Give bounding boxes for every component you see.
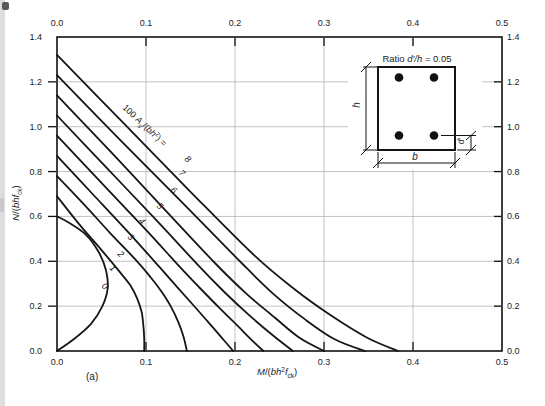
inset-column-section — [378, 67, 455, 150]
right-axis-tick-label: 0.6 — [507, 211, 520, 221]
inset-ratio-label: Ratio d′/h = 0.05 — [382, 53, 451, 64]
label-part: M — [257, 366, 265, 377]
label-part: 2 — [281, 366, 285, 373]
left-axis-tick-label: 0.8 — [29, 167, 42, 177]
label-part: = 0.05 — [422, 53, 451, 64]
right-axis-tick-label: 0.0 — [507, 346, 520, 356]
interaction-curve-8 — [57, 55, 398, 351]
bottom-axis-tick-label: 0.3 — [318, 357, 331, 367]
left-axis-tick-label: 0.4 — [29, 256, 42, 266]
label-part: ) — [294, 366, 297, 377]
bottom-axis-tick-label: 0.2 — [229, 357, 242, 367]
left-axis-tick-label: 1.0 — [29, 122, 42, 132]
x-axis-label: M/(bh2fck) — [257, 366, 297, 377]
interaction-curve-1 — [57, 196, 144, 351]
bottom-axis-tick-label: 0.5 — [496, 357, 509, 367]
label-part: /( — [10, 208, 21, 214]
left-axis-tick-label: 0.6 — [29, 211, 42, 221]
left-axis-tick-label: 1.4 — [29, 32, 42, 42]
top-axis-tick-label: 0.0 — [51, 18, 64, 28]
left-axis-tick-label: 1.2 — [29, 77, 42, 87]
right-axis-tick-label: 1.0 — [507, 122, 520, 132]
interaction-curve-0 — [57, 216, 108, 351]
label-part: N — [10, 214, 21, 221]
bottom-axis-tick-label: 0.4 — [407, 357, 420, 367]
panel-label: (a) — [86, 371, 98, 382]
label-part: bhf — [10, 195, 21, 208]
label-part: ck — [15, 188, 22, 195]
left-axis-tick-label: 0.2 — [29, 301, 42, 311]
top-axis-tick-label: 0.1 — [140, 18, 153, 28]
chart-canvas — [0, 0, 545, 406]
bottom-axis-tick-label: 0.0 — [51, 357, 64, 367]
label-part: bh — [271, 366, 282, 377]
left-axis-tick-label: 0.0 — [29, 346, 42, 356]
inset-b-dimension-label: b — [412, 151, 418, 162]
inset-h-dimension-label: h — [351, 102, 362, 108]
interaction-curve-6 — [57, 95, 324, 351]
column-interaction-design-chart: 0.00.00.10.10.20.20.30.30.40.40.50.50.00… — [0, 0, 545, 406]
inset-dprime-dimension-label: d′ — [456, 138, 466, 144]
top-axis-tick-label: 0.4 — [407, 18, 420, 28]
top-axis-tick-label: 0.2 — [229, 18, 242, 28]
inset-rebar-dot — [395, 73, 404, 82]
right-axis-tick-label: 0.4 — [507, 256, 520, 266]
top-axis-tick-label: 0.5 — [496, 18, 509, 28]
bottom-axis-tick-label: 0.1 — [140, 357, 153, 367]
right-axis-tick-label: 0.8 — [507, 167, 520, 177]
inset-rebar-dot — [430, 73, 439, 82]
label-part: ck — [288, 372, 295, 379]
right-axis-tick-label: 0.2 — [507, 301, 520, 311]
inset-rebar-dot — [395, 131, 404, 140]
right-axis-tick-label: 1.4 — [507, 32, 520, 42]
label-part: d′/h — [407, 53, 422, 64]
y-axis-label: N/(bhfck) — [10, 185, 21, 221]
inset-rebar-dot — [430, 131, 439, 140]
interaction-curve-2 — [57, 176, 187, 351]
interaction-curve-4 — [57, 136, 264, 351]
label-part: Ratio — [382, 53, 407, 64]
top-axis-tick-label: 0.3 — [318, 18, 331, 28]
right-axis-tick-label: 1.2 — [507, 77, 520, 87]
